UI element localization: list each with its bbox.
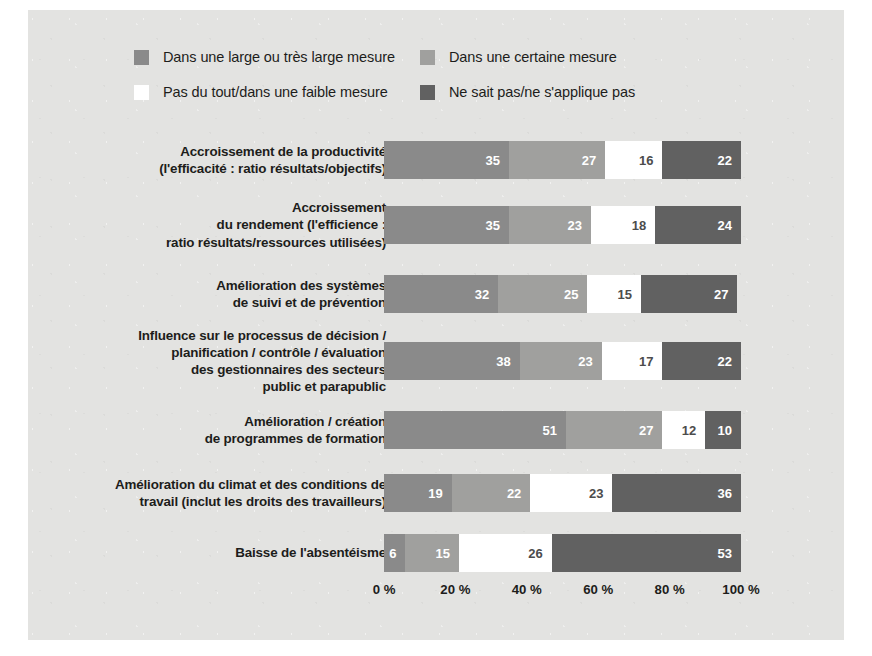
chart-bar-segment: 15 <box>587 275 641 313</box>
chart-segment-value: 35 <box>485 219 508 232</box>
chart-bar-segment: 19 <box>384 474 452 512</box>
chart-segment-value: 6 <box>389 547 405 560</box>
chart-bar-segment: 25 <box>498 275 587 313</box>
chart-bar-row: Amélioration du climat et des conditions… <box>28 471 844 515</box>
chart-bar-segment: 23 <box>509 206 591 244</box>
chart-category-label-line: (l'efficacité : ratio résultats/objectif… <box>56 160 386 177</box>
chart-bar-segment: 23 <box>520 342 602 380</box>
chart-segment-value: 18 <box>632 219 655 232</box>
chart-bar-segment: 18 <box>591 206 655 244</box>
chart-segment-value: 27 <box>582 154 605 167</box>
chart-category-label-line: Amélioration / création <box>56 413 386 430</box>
chart-stacked-bar: 32251527 <box>384 275 741 313</box>
chart-bar-segment: 17 <box>602 342 663 380</box>
chart-bar-row: Amélioration des systèmesde suivi et de … <box>28 272 844 316</box>
chart-stacked-bar: 6152653 <box>384 534 741 572</box>
chart-segment-value: 27 <box>714 288 737 301</box>
chart-bar-row: Accroissement de la productivité(l'effic… <box>28 138 844 182</box>
chart-segment-value: 36 <box>718 487 741 500</box>
chart-category-label: Amélioration des systèmesde suivi et de … <box>56 277 386 311</box>
chart-stacked-bar: 35271622 <box>384 141 741 179</box>
chart-category-label: Accroissement de la productivité(l'effic… <box>56 143 386 177</box>
chart-category-label-line: de programmes de formation <box>56 430 386 447</box>
chart-bar-segment: 27 <box>566 411 662 449</box>
chart-bar-segment: 16 <box>605 141 662 179</box>
chart-axis-tick: 20 % <box>440 582 470 597</box>
chart-bar-segment: 27 <box>509 141 605 179</box>
chart-bar-segment: 22 <box>662 141 741 179</box>
chart-bar-segment: 32 <box>384 275 498 313</box>
chart-bar-segment: 26 <box>459 534 552 572</box>
chart-bar-segment: 38 <box>384 342 520 380</box>
chart-bar-segment: 15 <box>405 534 459 572</box>
chart-bar-row: Influence sur le processus de décision /… <box>28 339 844 383</box>
chart-stacked-bar: 19222336 <box>384 474 741 512</box>
chart-segment-value: 24 <box>718 219 741 232</box>
chart-segment-value: 23 <box>589 487 612 500</box>
chart-category-label-line: Influence sur le processus de décision / <box>56 327 386 344</box>
chart-axis-tick: 40 % <box>512 582 542 597</box>
chart-segment-value: 17 <box>639 355 662 368</box>
chart-segment-value: 38 <box>496 355 519 368</box>
chart-category-label-line: Baisse de l'absentéisme <box>56 544 386 561</box>
chart-stacked-bar: 38231722 <box>384 342 741 380</box>
chart-bar-segment: 6 <box>384 534 405 572</box>
chart-category-label-line: de suivi et de prévention <box>56 294 386 311</box>
chart-bar-segment: 35 <box>384 206 509 244</box>
chart-category-label-line: Accroissement de la productivité <box>56 143 386 160</box>
chart-category-label-line: Amélioration du climat et des conditions… <box>56 476 386 493</box>
chart-category-label: Amélioration du climat et des conditions… <box>56 476 386 510</box>
chart-stacked-bar: 35231824 <box>384 206 741 244</box>
chart-x-axis: 0 %20 %40 %60 %80 %100 % <box>384 582 741 606</box>
chart-bar-segment: 36 <box>612 474 741 512</box>
chart-segment-value: 53 <box>718 547 741 560</box>
chart-segment-value: 19 <box>428 487 451 500</box>
chart-segment-value: 25 <box>564 288 587 301</box>
chart-category-label-line: ratio résultats/ressources utilisées) <box>56 234 386 251</box>
chart-bar-segment: 51 <box>384 411 566 449</box>
chart-axis-tick: 0 % <box>373 582 396 597</box>
chart-segment-value: 15 <box>618 288 641 301</box>
chart-category-label-line: des gestionnaires des secteurs <box>56 361 386 378</box>
chart-axis-tick: 100 % <box>722 582 759 597</box>
chart-segment-value: 32 <box>475 288 498 301</box>
chart-bar-segment: 12 <box>662 411 705 449</box>
chart-segment-value: 27 <box>639 424 662 437</box>
chart-segment-value: 22 <box>507 487 530 500</box>
chart-bar-segment: 24 <box>655 206 741 244</box>
chart-segment-value: 23 <box>568 219 591 232</box>
chart-figure: Dans une large ou très large mesure Dans… <box>28 10 844 640</box>
chart-bar-segment: 27 <box>641 275 737 313</box>
chart-segment-value: 23 <box>578 355 601 368</box>
chart-segment-value: 22 <box>718 355 741 368</box>
chart-stacked-bar: 51271210 <box>384 411 741 449</box>
chart-category-label-line: planification / contrôle / évaluation <box>56 344 386 361</box>
chart-segment-value: 15 <box>435 547 458 560</box>
chart-segment-value: 51 <box>543 424 566 437</box>
chart-category-label-line: Accroissement <box>56 199 386 216</box>
chart-bar-segment: 23 <box>530 474 612 512</box>
chart-segment-value: 35 <box>485 154 508 167</box>
chart-category-label-line: travail (inclut les droits des travaille… <box>56 493 386 510</box>
chart-category-label: Influence sur le processus de décision /… <box>56 327 386 396</box>
chart-category-label-line: du rendement (l'efficience : <box>56 216 386 233</box>
chart-bar-row: Amélioration / créationde programmes de … <box>28 408 844 452</box>
chart-segment-value: 26 <box>528 547 551 560</box>
chart-category-label: Baisse de l'absentéisme <box>56 544 386 561</box>
chart-bar-segment: 53 <box>552 534 741 572</box>
chart-bar-segment: 10 <box>705 411 741 449</box>
chart-segment-value: 12 <box>682 424 705 437</box>
chart-segment-value: 10 <box>717 424 740 437</box>
chart-segment-value: 16 <box>639 154 662 167</box>
chart-category-label: Amélioration / créationde programmes de … <box>56 413 386 447</box>
chart-category-label: Accroissementdu rendement (l'efficience … <box>56 199 386 250</box>
chart-segment-value: 22 <box>717 154 740 167</box>
chart-bar-row: Baisse de l'absentéisme6152653 <box>28 531 844 575</box>
chart-axis-tick: 80 % <box>655 582 685 597</box>
chart-plot-area: Accroissement de la productivité(l'effic… <box>28 10 844 640</box>
chart-bar-segment: 22 <box>662 342 741 380</box>
chart-bar-row: Accroissementdu rendement (l'efficience … <box>28 203 844 247</box>
chart-category-label-line: Amélioration des systèmes <box>56 277 386 294</box>
chart-bar-segment: 35 <box>384 141 509 179</box>
chart-category-label-line: public et parapublic <box>56 378 386 395</box>
